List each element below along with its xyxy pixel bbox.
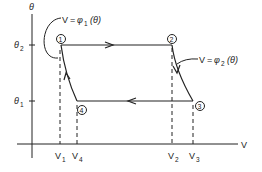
point-3: 3 xyxy=(196,102,205,111)
theta-axis-label: θ xyxy=(29,2,34,12)
svg-text:3: 3 xyxy=(198,103,202,110)
volume-axis-label: V xyxy=(241,140,247,150)
svg-text:=: = xyxy=(207,55,212,65)
path-2-to-3 xyxy=(172,45,193,101)
svg-text:1: 1 xyxy=(84,20,88,27)
v1-tick-label: V 1 xyxy=(55,151,66,163)
svg-text:2: 2 xyxy=(175,156,179,163)
path-1-to-2 xyxy=(61,42,172,48)
svg-text:φ: φ xyxy=(77,15,83,25)
theta2-subscript: 2 xyxy=(20,45,24,52)
phi1-annotation: V = φ 1 (θ) xyxy=(44,15,101,58)
point-1: 1 xyxy=(57,35,66,44)
dashed-guides xyxy=(60,48,193,144)
theta1-subscript: 1 xyxy=(20,101,24,108)
svg-text:φ: φ xyxy=(214,55,220,65)
svg-text:V: V xyxy=(168,151,174,161)
svg-text:(θ): (θ) xyxy=(227,55,238,65)
theta-axis: θ xyxy=(29,2,34,158)
volume-axis: V xyxy=(17,140,247,150)
svg-text:V: V xyxy=(72,151,78,161)
svg-text:V: V xyxy=(55,151,61,161)
path-3-to-4 xyxy=(77,98,193,104)
phi2-annotation: V = φ 2 (θ) xyxy=(177,55,238,67)
svg-text:(θ): (θ) xyxy=(90,15,101,25)
svg-text:1: 1 xyxy=(59,36,63,43)
svg-text:4: 4 xyxy=(80,107,84,114)
v4-tick-label: V 4 xyxy=(72,151,83,163)
svg-text:V: V xyxy=(62,15,68,25)
svg-text:4: 4 xyxy=(79,156,83,163)
v3-tick-label: V 3 xyxy=(189,151,200,163)
theta1-label: θ xyxy=(14,96,19,106)
svg-text:=: = xyxy=(70,15,75,25)
point-2: 2 xyxy=(168,35,177,44)
theta2-label: θ xyxy=(14,40,19,50)
svg-text:3: 3 xyxy=(196,156,200,163)
svg-text:2: 2 xyxy=(170,36,174,43)
path-4-to-1 xyxy=(61,45,77,101)
svg-text:V: V xyxy=(189,151,195,161)
point-4: 4 xyxy=(78,106,87,115)
svg-text:1: 1 xyxy=(62,156,66,163)
svg-text:V: V xyxy=(199,55,205,65)
cycle-diagram: θ V θ 2 θ 1 V 1 V 4 xyxy=(0,0,262,172)
v2-tick-label: V 2 xyxy=(168,151,179,163)
svg-text:2: 2 xyxy=(221,60,225,67)
